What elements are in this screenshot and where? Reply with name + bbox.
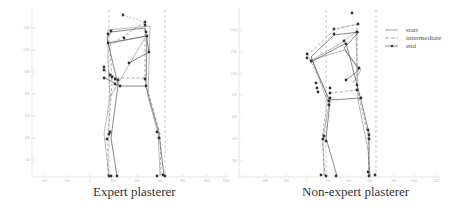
x-tick-labels: -400 -200 0 200 400 600 800 1000 1200 — [41, 179, 230, 183]
svg-text:1000: 1000 — [411, 179, 418, 183]
svg-text:400: 400 — [346, 179, 351, 183]
svg-text:400: 400 — [232, 137, 237, 141]
svg-text:200: 200 — [232, 159, 237, 163]
svg-text:end: end — [406, 42, 417, 50]
end-pose-torso — [311, 43, 369, 176]
x-ticks — [44, 174, 226, 177]
svg-text:1000: 1000 — [230, 72, 237, 76]
svg-text:-400: -400 — [262, 179, 268, 183]
svg-text:1200: 1200 — [23, 48, 30, 52]
svg-text:1200: 1200 — [223, 179, 230, 183]
svg-text:1400: 1400 — [23, 26, 30, 30]
svg-text:600: 600 — [157, 179, 162, 183]
svg-text:start: start — [406, 26, 418, 34]
start-pose — [312, 32, 370, 176]
legend-item-end: end — [385, 42, 417, 50]
y-ticks — [32, 28, 35, 160]
svg-text:800: 800 — [25, 92, 30, 96]
svg-text:200: 200 — [110, 179, 115, 183]
svg-text:1200: 1200 — [230, 50, 237, 54]
end-pose — [107, 28, 149, 176]
svg-text:600: 600 — [232, 115, 237, 119]
y-ticks — [239, 30, 242, 161]
svg-text:400: 400 — [134, 179, 139, 183]
svg-text:-200: -200 — [64, 179, 70, 183]
svg-text:intermediate: intermediate — [406, 34, 441, 42]
svg-text:1200: 1200 — [433, 179, 440, 183]
expert-plot: 1400 1200 1000 800 600 400 200 -400 -200… — [23, 8, 229, 183]
svg-text:1000: 1000 — [204, 179, 211, 183]
svg-text:0: 0 — [89, 179, 91, 183]
end-pose-hips — [330, 98, 361, 100]
svg-text:0: 0 — [306, 179, 308, 183]
end-pose-markers — [306, 12, 377, 178]
intermediate-pose-hips — [330, 90, 357, 93]
svg-text:800: 800 — [232, 93, 237, 97]
svg-text:400: 400 — [25, 136, 30, 140]
svg-text:800: 800 — [391, 179, 396, 183]
start-pose — [104, 26, 160, 176]
svg-text:-200: -200 — [283, 179, 289, 183]
svg-text:-400: -400 — [41, 179, 47, 183]
caption-non-expert: Non-expert plasterer — [302, 184, 409, 200]
legend-item-intermediate: intermediate — [385, 34, 441, 42]
svg-text:1000: 1000 — [23, 70, 30, 74]
legend-item-start: start — [385, 26, 418, 34]
y-tick-labels: 1400 1200 1000 800 600 400 200 — [23, 26, 30, 162]
legend: start intermediate end — [385, 26, 441, 50]
svg-text:600: 600 — [367, 179, 372, 183]
svg-text:1400: 1400 — [230, 28, 237, 32]
svg-text:600: 600 — [25, 114, 30, 118]
marker-icon — [391, 45, 393, 47]
y-tick-labels: 1400 1200 1000 800 600 400 200 — [230, 28, 237, 163]
x-tick-labels: -400 -200 0 200 400 600 800 1000 1200 — [262, 179, 440, 183]
figure: 1400 1200 1000 800 600 400 200 -400 -200… — [0, 0, 466, 210]
end-pose-hips — [104, 77, 146, 86]
svg-text:200: 200 — [325, 179, 330, 183]
svg-text:200: 200 — [25, 158, 30, 162]
end-pose — [311, 32, 359, 176]
caption-expert: Expert plasterer — [93, 184, 176, 200]
svg-text:800: 800 — [180, 179, 185, 183]
x-ticks — [245, 174, 436, 177]
